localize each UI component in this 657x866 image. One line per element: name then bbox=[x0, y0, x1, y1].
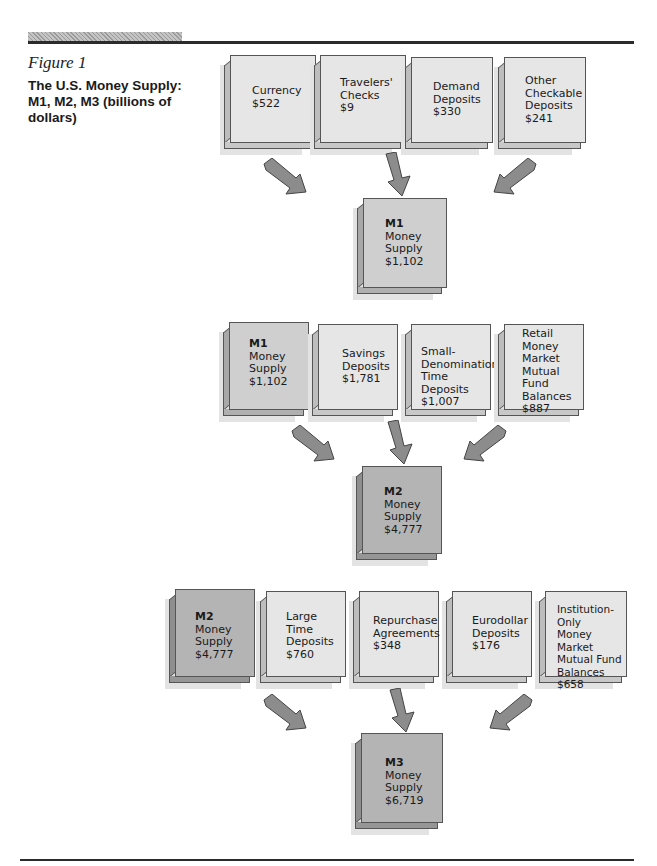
label: Eurodollar bbox=[472, 615, 528, 628]
label: Small- bbox=[421, 346, 499, 359]
value: $176 bbox=[472, 640, 528, 653]
arrow-down-right-icon bbox=[262, 694, 312, 734]
value: $658 bbox=[557, 678, 627, 691]
box-currency: Currency $522 bbox=[230, 55, 316, 143]
arrow-down-right-icon bbox=[262, 158, 312, 198]
label: Market bbox=[522, 353, 584, 366]
figure-title: The U.S. Money Supply: M1, M2, M3 (billi… bbox=[28, 78, 188, 126]
label: Mutual Fund bbox=[557, 653, 627, 666]
label: Demand bbox=[433, 81, 481, 94]
value: $1,007 bbox=[421, 396, 499, 409]
box-demand-deposits: Demand Deposits $330 bbox=[411, 57, 493, 143]
value: $1,102 bbox=[385, 256, 424, 269]
arrow-down-icon bbox=[380, 152, 420, 198]
box-m3-total: M3 Money Supply $6,719 bbox=[361, 733, 443, 823]
value: $1,102 bbox=[249, 376, 288, 389]
label: Balances bbox=[557, 666, 627, 679]
label: Supply bbox=[385, 782, 424, 795]
value: $348 bbox=[373, 640, 440, 653]
m2-label: M2 bbox=[195, 611, 234, 624]
box-m1-component: M1 Money Supply $1,102 bbox=[229, 322, 309, 410]
box-m1-total: M1 Money Supply $1,102 bbox=[363, 198, 447, 288]
box-repurchase-agreements: Repurchase Agreements $348 bbox=[359, 591, 439, 677]
figure-label: Figure 1 bbox=[28, 53, 86, 73]
label: Currency bbox=[252, 85, 302, 98]
value: $760 bbox=[286, 649, 334, 662]
label: Repurchase bbox=[373, 615, 440, 628]
label: Supply bbox=[195, 636, 234, 649]
label: Institution-Only bbox=[557, 603, 627, 628]
arrow-down-left-icon bbox=[488, 158, 538, 198]
arrow-down-icon bbox=[384, 688, 424, 734]
label: Mutual Fund bbox=[522, 366, 584, 391]
label: Savings bbox=[342, 348, 390, 361]
arrow-down-left-icon bbox=[458, 425, 508, 465]
top-rule bbox=[28, 41, 634, 44]
label: Travelers' bbox=[340, 77, 393, 90]
value: $6,719 bbox=[385, 795, 424, 808]
label: Time Deposits bbox=[421, 371, 499, 396]
value: $4,777 bbox=[195, 649, 234, 662]
value: $4,777 bbox=[384, 524, 423, 537]
label: Deposits bbox=[286, 636, 334, 649]
box-eurodollar-deposits: Eurodollar Deposits $176 bbox=[452, 591, 532, 677]
value: $241 bbox=[525, 113, 582, 126]
label: Money Market bbox=[557, 628, 627, 653]
box-small-denomination-time-deposits: Small- Denomination Time Deposits $1,007 bbox=[411, 324, 491, 410]
label: Deposits bbox=[525, 100, 582, 113]
m1-label: M1 bbox=[249, 338, 288, 351]
header-hatch-bar bbox=[28, 32, 182, 41]
m2-label: M2 bbox=[384, 486, 423, 499]
box-large-time-deposits: Large Time Deposits $760 bbox=[266, 591, 346, 677]
box-travelers-checks: Travelers' Checks $9 bbox=[320, 55, 406, 143]
box-institution-only-money-market-funds: Institution-Only Money Market Mutual Fun… bbox=[545, 591, 627, 677]
value: $9 bbox=[340, 102, 393, 115]
value: $887 bbox=[522, 403, 584, 416]
arrow-down-left-icon bbox=[484, 694, 534, 734]
m3-label: M3 bbox=[385, 757, 424, 770]
label: Supply bbox=[385, 243, 424, 256]
label: Supply bbox=[384, 511, 423, 524]
box-savings-deposits: Savings Deposits $1,781 bbox=[318, 324, 398, 410]
box-retail-money-market-funds: Retail Money Market Mutual Fund Balances… bbox=[504, 324, 584, 410]
value: $1,781 bbox=[342, 373, 390, 386]
box-other-checkable-deposits: Other Checkable Deposits $241 bbox=[504, 57, 586, 143]
value: $330 bbox=[433, 106, 481, 119]
arrow-down-right-icon bbox=[290, 425, 340, 465]
box-m2-total: M2 Money Supply $4,777 bbox=[362, 466, 442, 554]
bottom-rule bbox=[20, 859, 634, 861]
label: Other bbox=[525, 75, 582, 88]
box-m2-component: M2 Money Supply $4,777 bbox=[175, 589, 255, 677]
arrow-down-icon bbox=[382, 420, 422, 466]
label: Retail bbox=[522, 328, 584, 341]
label: Supply bbox=[249, 363, 288, 376]
label: Large bbox=[286, 611, 334, 624]
value: $522 bbox=[252, 98, 302, 111]
m1-label: M1 bbox=[385, 218, 424, 231]
